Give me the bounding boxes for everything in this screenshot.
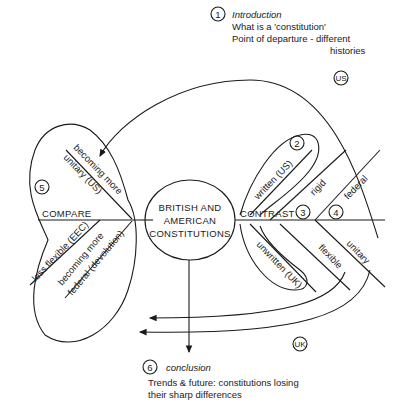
compare-label: COMPARE (42, 208, 91, 219)
section-6-conclusion: 6 conclusion Trends & future: constituti… (143, 360, 299, 400)
uk-flow-arrow-1 (150, 272, 345, 318)
rigid-label: rigid (308, 177, 328, 198)
number-6: 6 (147, 362, 152, 373)
conclusion-line-1: Trends & future: constitutions losing (148, 377, 299, 388)
center-line-3: CONSTITUTIONS (149, 228, 230, 239)
number-3: 3 (300, 207, 305, 218)
us-badge-label: US (335, 74, 346, 83)
number-2: 2 (294, 138, 299, 149)
flexible-label: flexible (317, 242, 345, 271)
diagram-canvas: 1 Introduction What is a 'constitution' … (0, 0, 403, 420)
intro-line-3: histories (330, 45, 366, 56)
number-4: 4 (333, 207, 338, 218)
number-1: 1 (215, 9, 220, 20)
conclusion-title: conclusion (166, 362, 211, 373)
contrast-label: CONTRAST (240, 208, 295, 219)
intro-line-1: What is a 'constitution' (232, 21, 326, 32)
intro-line-2: Point of departure - different (232, 33, 350, 44)
uk-flow-arrow-2 (140, 270, 370, 332)
number-5: 5 (39, 182, 44, 193)
conclusion-line-2: their sharp differences (148, 389, 242, 400)
intro-title: Introduction (232, 9, 282, 20)
center-line-2: AMERICAN (164, 215, 217, 226)
uk-badge-label: UK (294, 340, 306, 349)
section-1-introduction: 1 Introduction What is a 'constitution' … (211, 7, 366, 56)
written-us: written (US) (251, 158, 294, 202)
center-line-1: BRITISH AND (159, 202, 222, 213)
unwritten-uk: unwritten (UK) (255, 239, 305, 290)
